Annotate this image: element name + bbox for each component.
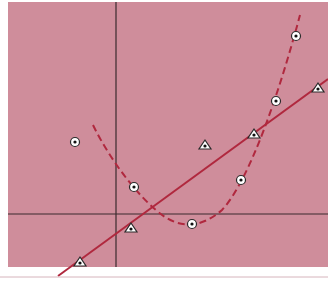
marker-center-dot xyxy=(132,185,135,188)
marker-center-dot xyxy=(190,222,193,225)
marker-center-dot xyxy=(316,87,319,90)
marker-center-dot xyxy=(252,133,255,136)
marker-center-dot xyxy=(73,140,76,143)
scatter-plot xyxy=(0,0,328,290)
chart-figure xyxy=(0,0,328,290)
marker-center-dot xyxy=(129,227,132,230)
plot-background xyxy=(8,2,328,267)
marker-center-dot xyxy=(274,99,277,102)
marker-center-dot xyxy=(239,178,242,181)
marker-center-dot xyxy=(294,34,297,37)
marker-center-dot xyxy=(203,144,206,147)
marker-center-dot xyxy=(78,261,81,264)
